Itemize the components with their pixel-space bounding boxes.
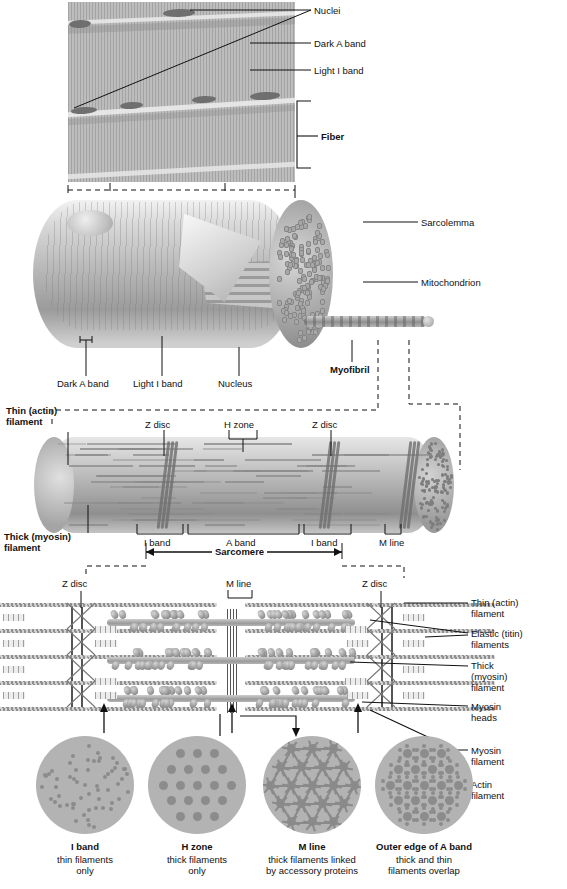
caption-desc-h-zone: thick filamentsonly bbox=[138, 854, 256, 876]
cross-section-h-zone bbox=[148, 736, 246, 834]
caption-desc-m-line: thick filaments linkedby accessory prote… bbox=[245, 854, 379, 876]
caption-title-i-band: I band bbox=[36, 841, 134, 852]
cross-section-m-line bbox=[263, 736, 361, 834]
figure-canvas: Nuclei Dark A band Light I band Fiber Sa… bbox=[0, 0, 567, 889]
caption-title-h-zone: H zone bbox=[148, 841, 246, 852]
caption-desc-outer-edge-a-band: thick and thinfilaments overlap bbox=[362, 854, 486, 876]
caption-desc-i-band: thin filamentsonly bbox=[26, 854, 144, 876]
cross-section-i-band bbox=[36, 736, 134, 834]
caption-title-m-line: M line bbox=[263, 841, 361, 852]
cross-section-outer-edge-a-band bbox=[375, 736, 473, 834]
caption-title-outer-edge-a-band: Outer edge of A band bbox=[356, 841, 492, 852]
